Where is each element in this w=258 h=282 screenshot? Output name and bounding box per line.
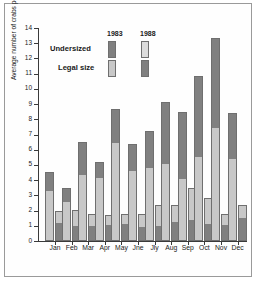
y-tick	[34, 150, 38, 151]
segment-legal-size	[212, 128, 219, 240]
x-axis	[38, 241, 247, 242]
y-tick-label: 2	[16, 207, 32, 214]
y-tick	[34, 28, 38, 29]
segment-undersized	[46, 173, 53, 191]
y-tick-label: 1	[16, 222, 32, 229]
y-tick-label: 6	[16, 146, 32, 153]
segment-legal-size	[146, 168, 153, 240]
y-tick-label: 9	[16, 101, 32, 108]
segment-undersized	[229, 114, 236, 159]
segment-undersized	[112, 110, 119, 142]
segment-legal-size	[129, 171, 136, 240]
y-tick	[34, 241, 38, 242]
bar-1983[interactable]	[161, 102, 170, 241]
segment-undersized	[129, 145, 136, 170]
y-tick-label: 13	[16, 40, 32, 47]
segment-undersized	[179, 113, 186, 180]
plot-area: Average number of crabs per lift 0123456…	[38, 28, 247, 242]
segment-undersized	[146, 132, 153, 168]
segment-undersized	[195, 77, 202, 157]
y-tick	[34, 165, 38, 166]
y-tick	[34, 43, 38, 44]
y-tick-label: 5	[16, 161, 32, 168]
y-tick	[34, 58, 38, 59]
bar-1983[interactable]	[95, 162, 104, 241]
y-tick-label: 7	[16, 131, 32, 138]
segment-undersized	[96, 163, 103, 179]
segment-undersized	[239, 206, 246, 218]
segment-undersized	[212, 39, 219, 128]
segment-legal-size	[179, 179, 186, 240]
segment-legal-size	[79, 175, 86, 240]
segment-legal-size	[195, 157, 202, 240]
y-tick-label: 14	[16, 25, 32, 32]
segment-legal-size	[239, 218, 246, 240]
y-tick-label: 4	[16, 177, 32, 184]
segment-undersized	[79, 143, 86, 175]
segment-legal-size	[63, 202, 70, 240]
y-tick-label: 11	[16, 70, 32, 77]
y-tick-label: 12	[16, 55, 32, 62]
segment-legal-size	[229, 159, 236, 240]
y-tick-label: 0	[16, 238, 32, 245]
bar-1983[interactable]	[228, 113, 237, 241]
bar-1983[interactable]	[194, 76, 203, 241]
segment-legal-size	[112, 143, 119, 240]
bar-1983[interactable]	[178, 112, 187, 241]
bar-1983[interactable]	[62, 188, 71, 241]
x-tick-label: Dec	[226, 244, 250, 251]
bar-1983[interactable]	[111, 109, 120, 241]
bar-1988[interactable]	[238, 205, 247, 241]
y-tick-label: 8	[16, 116, 32, 123]
y-tick-label: 10	[16, 85, 32, 92]
bar-1983[interactable]	[145, 131, 154, 241]
segment-undersized	[162, 103, 169, 164]
y-tick	[34, 211, 38, 212]
y-axis	[38, 28, 39, 242]
y-tick	[34, 195, 38, 196]
y-tick	[34, 180, 38, 181]
y-tick	[34, 104, 38, 105]
bar-1983[interactable]	[45, 172, 54, 241]
bar-1983[interactable]	[128, 144, 137, 241]
bar-1983[interactable]	[211, 38, 220, 241]
y-tick	[34, 135, 38, 136]
bar-1983[interactable]	[78, 142, 87, 241]
y-tick	[34, 74, 38, 75]
chart-frame: 1983 1988 Undersized Legal size Average …	[4, 3, 252, 277]
y-tick	[34, 119, 38, 120]
segment-legal-size	[96, 178, 103, 240]
segment-legal-size	[162, 164, 169, 240]
y-tick	[34, 89, 38, 90]
segment-undersized	[63, 189, 70, 202]
y-tick	[34, 226, 38, 227]
bar-group	[228, 28, 248, 241]
segment-legal-size	[46, 191, 53, 240]
y-tick-label: 3	[16, 192, 32, 199]
